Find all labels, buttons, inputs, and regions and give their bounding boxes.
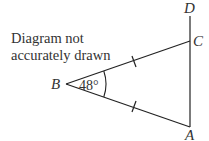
label-D: D — [183, 0, 195, 16]
label-C: C — [193, 33, 204, 49]
angle-arc-B — [104, 71, 106, 97]
triangle-diagram: 48° B C D A — [0, 0, 209, 141]
label-A: A — [184, 127, 195, 141]
label-B: B — [51, 76, 60, 92]
angle-value: 48° — [79, 78, 99, 93]
